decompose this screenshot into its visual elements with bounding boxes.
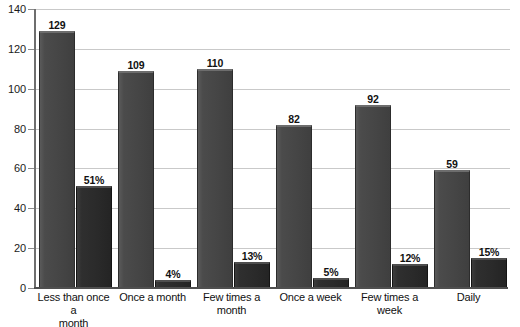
- x-axis-category-labels: Less than once amonthOnce a monthFew tim…: [34, 291, 508, 327]
- category-label: Daily: [429, 291, 508, 304]
- category-label-line: Daily: [429, 291, 508, 304]
- bar-percent[interactable]: 13%: [234, 262, 270, 288]
- category-label-line: month: [34, 317, 113, 327]
- y-tick-label: 80: [0, 124, 26, 134]
- bar-count[interactable]: 109: [118, 71, 154, 288]
- y-tick-label: 120: [0, 44, 26, 54]
- category-label: Less than once amonth: [34, 291, 113, 327]
- gridline: [36, 49, 510, 50]
- y-tick-mark: [28, 9, 34, 10]
- category-label-line: Less than once a: [34, 291, 113, 317]
- bar-value-label: 13%: [242, 250, 263, 262]
- bar-value-label: 59: [446, 158, 457, 170]
- y-tick-label: 40: [0, 203, 26, 213]
- gridline: [36, 89, 510, 90]
- gridline: [36, 168, 510, 169]
- category-label: Few times a week: [350, 291, 429, 317]
- y-tick-mark: [28, 129, 34, 130]
- y-tick-label: 60: [0, 163, 26, 173]
- plot-area: 12951%1094%11013%825%9212%5915%: [34, 9, 510, 288]
- bar-value-label: 82: [288, 113, 299, 125]
- bar-value-label: 12%: [400, 252, 421, 264]
- y-axis: 140120100806040200: [0, 0, 26, 327]
- bar-value-label: 129: [48, 19, 65, 31]
- bar-percent[interactable]: 51%: [76, 186, 112, 288]
- bar-count[interactable]: 129: [39, 31, 75, 288]
- category-label-line: Few times a week: [350, 291, 429, 317]
- y-tick-label: 100: [0, 84, 26, 94]
- gridline: [36, 9, 510, 10]
- category-label-line: Few times a month: [192, 291, 271, 317]
- y-tick-mark: [28, 49, 34, 50]
- bar-count[interactable]: 82: [276, 125, 312, 288]
- bar-count[interactable]: 110: [197, 69, 233, 288]
- bar-value-label: 15%: [479, 246, 500, 258]
- x-axis-line: [34, 287, 508, 289]
- bar-count[interactable]: 92: [355, 105, 391, 288]
- y-tick-label: 20: [0, 243, 26, 253]
- bar-chart: 140120100806040200 12951%1094%11013%825%…: [0, 0, 520, 327]
- y-tick-mark: [28, 168, 34, 169]
- bar-percent[interactable]: 15%: [471, 258, 507, 288]
- gridline: [36, 129, 510, 130]
- bar-value-label: 109: [127, 59, 144, 71]
- bar-value-label: 110: [207, 57, 224, 69]
- category-label: Once a week: [271, 291, 350, 304]
- bar-value-label: 5%: [324, 266, 339, 278]
- bar-value-label: 4%: [166, 268, 181, 280]
- category-label: Once a month: [113, 291, 192, 304]
- bar-value-label: 92: [367, 93, 378, 105]
- y-tick-mark: [28, 248, 34, 249]
- y-tick-label: 0: [0, 283, 26, 293]
- y-tick-mark: [28, 89, 34, 90]
- bar-percent[interactable]: 12%: [392, 264, 428, 288]
- bar-value-label: 51%: [84, 174, 105, 186]
- bar-count[interactable]: 59: [434, 170, 470, 288]
- y-tick-mark: [28, 208, 34, 209]
- category-label-line: Once a week: [271, 291, 350, 304]
- category-label-line: Once a month: [113, 291, 192, 304]
- category-label: Few times a month: [192, 291, 271, 317]
- y-tick-label: 140: [0, 4, 26, 14]
- y-tick-mark: [28, 288, 34, 289]
